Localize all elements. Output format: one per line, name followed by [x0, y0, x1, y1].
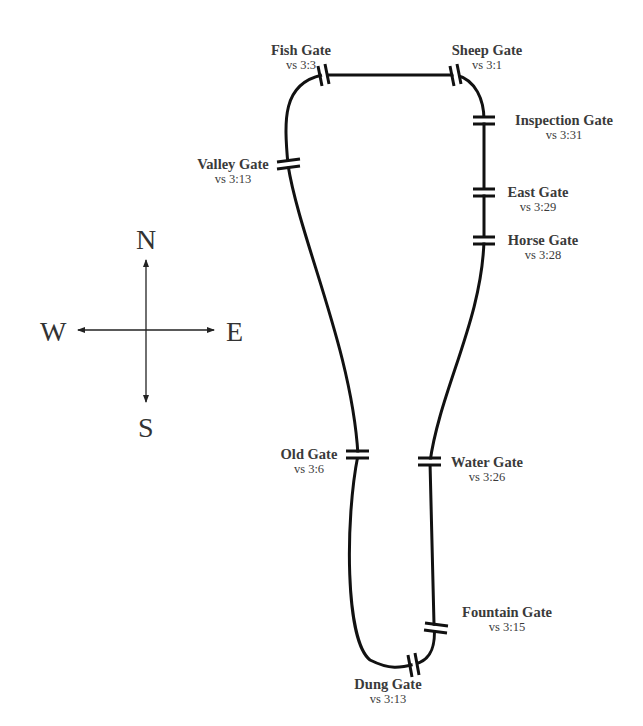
gate-label-horse: Horse Gate vs 3:28	[498, 232, 588, 263]
gate-label-old: Old Gate vs 3:6	[276, 446, 342, 477]
gate-reference: vs 3:28	[498, 248, 588, 263]
east-gate-marker	[473, 189, 495, 196]
gate-reference: vs 3:3	[258, 58, 344, 73]
gate-label-inspection: Inspection Gate vs 3:31	[500, 112, 628, 143]
gate-reference: vs 3:13	[348, 692, 428, 707]
gate-label-sheep: Sheep Gate vs 3:1	[442, 42, 532, 73]
gate-name: Old Gate	[276, 446, 342, 462]
gate-label-water: Water Gate vs 3:26	[444, 454, 530, 485]
gate-reference: vs 3:1	[442, 58, 532, 73]
inspection-gate-marker	[473, 117, 495, 124]
old-gate-marker	[346, 451, 369, 458]
gate-name: Fish Gate	[258, 42, 344, 58]
fountain-gate-marker	[424, 623, 448, 633]
gate-name: Valley Gate	[188, 156, 278, 172]
gate-name: Sheep Gate	[442, 42, 532, 58]
gate-reference: vs 3:6	[276, 462, 342, 477]
gate-name: Fountain Gate	[452, 604, 562, 620]
compass-west-label: W	[40, 318, 66, 346]
gate-name: Dung Gate	[348, 676, 428, 692]
gate-reference: vs 3:29	[498, 200, 578, 215]
gate-label-fish: Fish Gate vs 3:3	[258, 42, 344, 73]
gate-name: Horse Gate	[498, 232, 588, 248]
gate-label-valley: Valley Gate vs 3:13	[188, 156, 278, 187]
gate-name: Inspection Gate	[500, 112, 628, 128]
gate-name: Water Gate	[444, 454, 530, 470]
horse-gate-marker	[473, 237, 495, 244]
gate-reference: vs 3:15	[452, 620, 562, 635]
compass-east-label: E	[226, 318, 243, 346]
gate-name: East Gate	[498, 184, 578, 200]
dung-gate-marker	[408, 653, 419, 677]
valley-gate-marker	[277, 159, 300, 169]
water-gate-marker	[418, 458, 441, 465]
gate-reference: vs 3:31	[500, 128, 628, 143]
gate-label-dung: Dung Gate vs 3:13	[348, 676, 428, 707]
city-wall-outline	[286, 75, 484, 667]
gate-label-east: East Gate vs 3:29	[498, 184, 578, 215]
compass-south-label: S	[138, 414, 154, 442]
gate-reference: vs 3:13	[188, 172, 278, 187]
gate-label-fountain: Fountain Gate vs 3:15	[452, 604, 562, 635]
compass	[78, 260, 214, 402]
gate-reference: vs 3:26	[444, 470, 530, 485]
compass-north-label: N	[136, 226, 156, 254]
